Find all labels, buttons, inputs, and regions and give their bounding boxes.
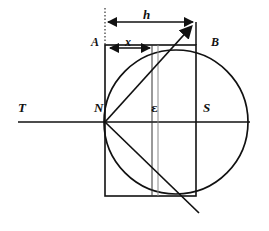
label-h: h — [143, 8, 150, 21]
label-N: N — [94, 101, 103, 114]
label-A: A — [91, 36, 99, 48]
bounding-rectangle — [105, 45, 196, 196]
label-S: S — [203, 101, 210, 114]
label-T: T — [18, 101, 26, 114]
geometry-diagram: h A x B T N ε S — [0, 0, 269, 231]
label-B: B — [211, 36, 219, 48]
label-x: x — [125, 36, 131, 48]
label-epsilon: ε — [151, 103, 158, 114]
diagram-canvas — [0, 0, 269, 231]
upper-diagonal-ray — [105, 27, 191, 122]
